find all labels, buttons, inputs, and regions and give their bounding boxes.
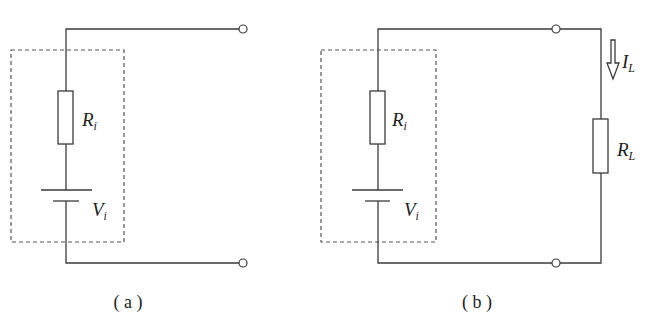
bottom-wire-right	[560, 173, 601, 263]
label-ri: Ri	[391, 109, 407, 133]
terminal-bottom-icon	[552, 259, 560, 267]
label-rl: RL	[616, 139, 636, 163]
top-wire-right	[560, 29, 601, 119]
terminal-bottom-icon	[239, 259, 247, 267]
label-ri: Ri	[81, 109, 97, 133]
terminal-top-icon	[239, 25, 247, 33]
panel-a: Ri Vi ( a )	[11, 25, 247, 313]
label-vi: Vi	[404, 199, 419, 223]
caption-a: ( a )	[114, 292, 143, 313]
label-il: IL	[621, 51, 635, 75]
source-boundary-box	[11, 50, 124, 242]
load-resistor-icon	[593, 119, 608, 173]
panel-b: IL Ri Vi RL ( b )	[321, 25, 636, 313]
current-arrow-down-icon	[607, 40, 619, 79]
internal-resistor-icon	[370, 91, 385, 144]
label-vi: Vi	[92, 199, 107, 223]
top-wire	[66, 29, 240, 91]
terminal-top-icon	[552, 25, 560, 33]
top-wire-left	[378, 29, 552, 91]
caption-b: ( b )	[462, 292, 492, 313]
circuit-diagram: Ri Vi ( a ) IL Ri Vi RL ( b )	[0, 0, 655, 333]
internal-resistor-icon	[58, 91, 73, 144]
